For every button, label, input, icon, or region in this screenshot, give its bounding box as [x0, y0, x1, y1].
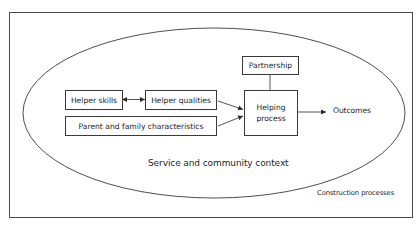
node-parent-family-label: Parent and family characteristics	[79, 121, 204, 132]
node-outcomes: Outcomes	[333, 106, 371, 115]
arrow-qualities-process	[218, 101, 243, 110]
node-helper-skills: Helper skills	[65, 90, 123, 110]
node-helping-process-line1: Helping	[256, 102, 285, 113]
node-helper-qualities: Helper qualities	[145, 90, 217, 110]
arrow-family-process	[218, 116, 243, 126]
node-partnership-label: Partnership	[249, 60, 292, 71]
node-partnership: Partnership	[242, 56, 299, 75]
node-helping-process-line2: process	[256, 113, 285, 124]
outer-frame	[10, 13, 413, 218]
outer-frame-label: Construction processes	[317, 189, 394, 197]
node-helper-skills-label: Helper skills	[71, 95, 117, 106]
ellipse-label: Service and community context	[148, 158, 289, 168]
diagram: Partnership Helper skills Helper qualiti…	[0, 0, 418, 226]
node-parent-family: Parent and family characteristics	[65, 116, 217, 136]
node-helping-process: Helping process	[244, 90, 298, 136]
node-helper-qualities-label: Helper qualities	[151, 95, 211, 106]
